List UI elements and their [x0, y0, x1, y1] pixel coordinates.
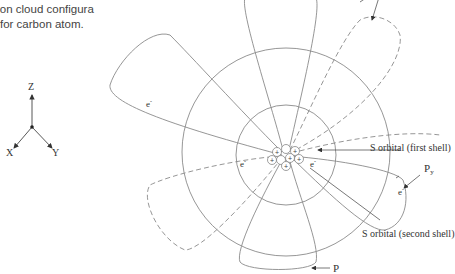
electron-charge: -	[314, 158, 316, 164]
dashed-lobe-upper-right	[290, 17, 400, 152]
electron-label: e-	[240, 158, 246, 169]
axis-label-z: Z	[28, 81, 34, 92]
label-py-sub: y	[430, 168, 434, 176]
axis-triad-icon	[14, 95, 52, 148]
svg-text:+: +	[288, 155, 292, 162]
svg-text:+: +	[284, 163, 288, 170]
electron-label: e-	[146, 98, 152, 109]
axis-label-y: Y	[52, 147, 59, 158]
svg-text:+: +	[297, 156, 301, 163]
label-s-orbital-first-shell: S orbital (first shell)	[370, 142, 451, 153]
label-pz: P	[333, 262, 339, 274]
svg-text:+: +	[275, 149, 279, 156]
pz-lobe-bottom	[239, 158, 316, 270]
label-py: Py	[424, 162, 434, 176]
dashed-lobe-lower-left	[147, 156, 282, 250]
axis-label-x: X	[6, 147, 13, 158]
electron-label: e-	[310, 158, 316, 169]
pz-lobe-top	[244, 0, 317, 150]
electron-charge: -	[402, 186, 404, 192]
label-s-orbital-second-shell: S orbital (second shell)	[362, 228, 454, 239]
electron-charge: -	[150, 98, 152, 104]
svg-text:+: +	[293, 148, 297, 155]
electron-charge: -	[244, 158, 246, 164]
electron-label: e-	[398, 186, 404, 197]
svg-text:+: +	[270, 157, 274, 164]
